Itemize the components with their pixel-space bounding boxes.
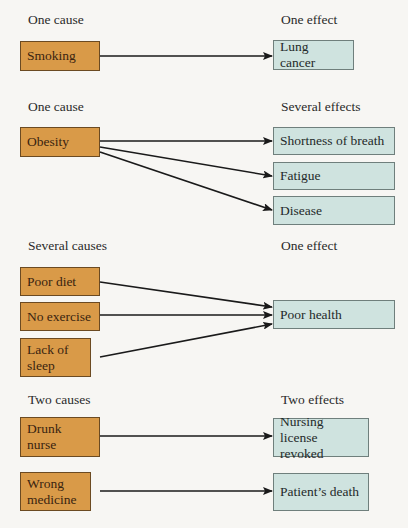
arrow-lack-of-sleep-poor-health bbox=[100, 324, 272, 357]
arrows-layer bbox=[0, 0, 408, 528]
arrow-poor-diet-poor-health bbox=[100, 282, 272, 307]
